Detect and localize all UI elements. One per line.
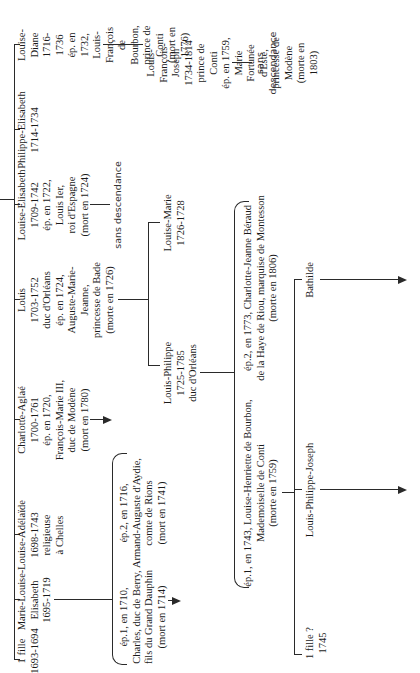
person-louis-duc-orleans: Louis 1703-1752 duc d'Orléans ép. en 172… [16,262,116,338]
lpj-arrow-line [320,489,400,490]
drop-louise-marie [148,222,160,223]
person-louise-elisabeth: Louise-Elisabeth 1709-1742 ép. en 1722, … [16,169,91,240]
root-stem [0,199,14,200]
person-louise-adelaide: Louise-Adélaïde 1698-1743 religieuse à C… [16,500,66,570]
le-issue-line [90,204,110,205]
person-philippe-elisabeth: Philippe-Elisabeth 1714-1734 [16,91,41,169]
louis-children-bar [148,223,149,366]
lp-marriage-1: ép.1, en 1743, Louise-Henriette de Bourb… [242,399,280,587]
le-sans-descendance: sans descendance [112,161,125,249]
lp-stem [200,372,234,373]
bathilde-arrow-line [320,279,400,280]
person-louise-marie: Louise-Marie 1726-1728 [162,194,187,251]
lp-children-bar [294,280,295,655]
arrow-down-icon [398,486,407,494]
lp-marriage-2: ép.2, en 1773, Charlotte-Jeanne Béraud d… [242,195,280,380]
arrow-down-icon [172,597,181,605]
person-fille-1745: 1 fille ? 1745 [304,627,329,659]
lfj-issue-line [232,62,252,63]
drop-lpj [294,489,302,490]
arrow-down-icon [103,416,112,424]
louis-stem [118,299,148,300]
person-louis-philippe-joseph: Louis-Philippe-Joseph [304,443,317,538]
person-marie-louise-elisabeth: Marie-Louise- Elisabeth 1695-1719 [16,570,54,631]
mle-stem [54,599,112,600]
mle-marriage-1: ép.1, en 1710, Charles, duc de Berry, fi… [118,570,168,664]
ld-line [103,44,143,45]
siblings-bar [14,45,15,660]
lfj-sans-descendance: sans descendance [254,32,279,95]
mle-marriage-2: ép.2, en 1716, Armand-Auguste d'Aydie, c… [118,458,168,568]
drop-louis-philippe [148,365,160,366]
person-louis-philippe: Louis-Philippe 1725-1785 duc d'Orléans [162,342,200,404]
charlotte-line [90,419,104,420]
genealogy-tree: 1 fille 1693-1694 Marie-Louise- Elisabet… [0,0,420,673]
drop-fille-1745 [294,654,302,655]
person-charlotte-aglae: Charlotte-Aglaé 1700-1761 ép. en 1720, F… [16,380,91,460]
drop-bathilde [294,279,302,280]
person-louis-francois-joseph: Louis-François-Joseph 1734-1814 prince d… [145,32,320,95]
lp-m1-stem [282,492,294,493]
person-bathilde: Bathilde [304,262,317,298]
mle-m1-line [168,600,174,601]
person-fille-1693: 1 fille 1693-1694 [16,628,41,673]
arrow-down-icon [398,276,407,284]
